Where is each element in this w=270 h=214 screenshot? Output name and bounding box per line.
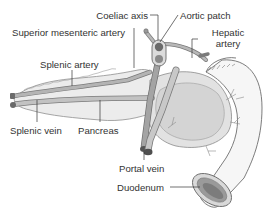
label-splenic-vein: Splenic vein xyxy=(10,125,62,136)
label-hepatic-artery-line2: artery xyxy=(200,38,256,49)
label-portal-vein: Portal vein xyxy=(119,163,164,174)
label-hepatic-artery-line1: Hepatic xyxy=(200,27,256,38)
label-coeliac-axis: Coeliac axis xyxy=(82,10,148,21)
label-superior-mesenteric-artery: Superior mesenteric artery xyxy=(12,27,125,38)
label-duodenum: Duodenum xyxy=(117,182,164,193)
leader-aortic-patch xyxy=(160,15,178,42)
aortic-patch-illustration xyxy=(144,29,166,66)
label-aortic-patch: Aortic patch xyxy=(180,10,231,21)
label-splenic-artery: Splenic artery xyxy=(40,59,99,70)
pancreas-graft-diagram: Coeliac axis Aortic patch Superior mesen… xyxy=(0,0,270,214)
label-pancreas: Pancreas xyxy=(78,125,119,136)
